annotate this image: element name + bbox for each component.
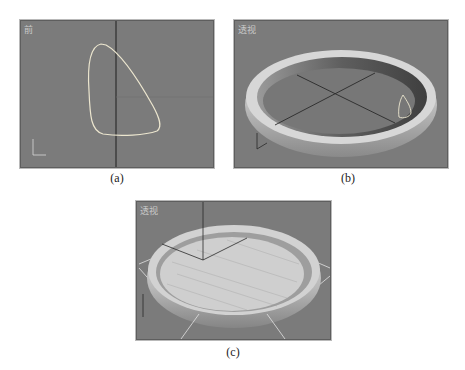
caption-c: (c) bbox=[213, 345, 253, 360]
front-view-canvas bbox=[21, 21, 213, 167]
viewport-front[interactable]: 前 bbox=[20, 20, 214, 168]
viewport-perspective-b[interactable]: 透视 bbox=[234, 20, 448, 168]
viewport-label: 前 bbox=[24, 23, 33, 36]
viewport-perspective-c[interactable]: 透视 bbox=[136, 201, 331, 340]
caption-a: (a) bbox=[97, 171, 137, 186]
spline-profile-curve bbox=[89, 44, 160, 135]
caption-b: (b) bbox=[328, 171, 368, 186]
axis-gizmo-icon bbox=[33, 139, 46, 155]
viewport-label: 透视 bbox=[238, 23, 256, 36]
viewport-label: 透视 bbox=[140, 204, 158, 217]
perspective-view-canvas bbox=[235, 21, 447, 167]
inner-plate bbox=[160, 237, 304, 311]
dish-floor bbox=[263, 68, 415, 134]
perspective-view-canvas bbox=[137, 202, 330, 339]
